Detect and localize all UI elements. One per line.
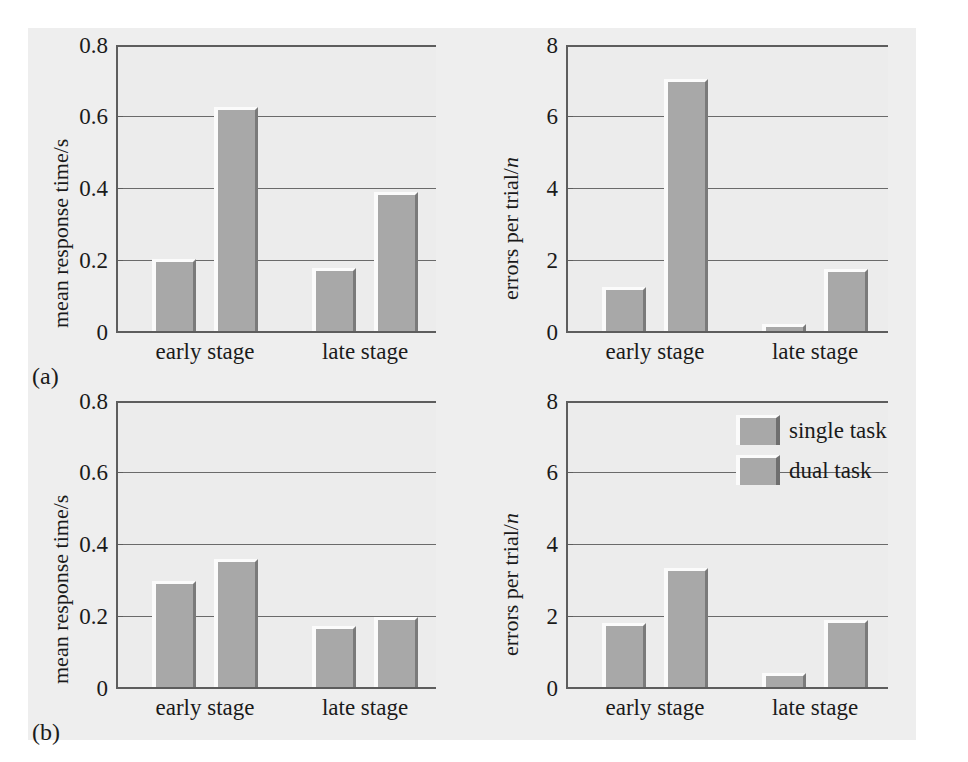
y-tick-0.8 [116, 401, 123, 402]
y-tick-label: 0 [547, 321, 559, 344]
legend: single task dual task [736, 413, 887, 493]
x-category-label-early: early stage [606, 340, 705, 363]
y-tick-0.2 [116, 260, 123, 261]
y-tick-label: 0.4 [79, 533, 108, 556]
y-tick-label: 0.8 [79, 390, 108, 413]
y-tick-label: 4 [547, 533, 559, 556]
y-tick-2 [566, 260, 573, 261]
y-tick-0 [116, 332, 123, 333]
legend-label-single-task: single task [789, 419, 887, 442]
y-tick-label: 0.2 [79, 249, 108, 272]
bar-late-dual [374, 617, 418, 687]
gridline-0.4 [116, 188, 436, 189]
x-category-label-late: late stage [772, 696, 858, 719]
y-axis-label-text: errors per trial/n [498, 513, 523, 656]
bar-early-dual [664, 79, 708, 331]
y-axis-label: mean response time/s [50, 139, 72, 328]
y-tick-0.4 [116, 544, 123, 545]
plot-area: 8 6 4 2 0 single task dual task [566, 401, 888, 689]
chart-a-errors: errors per trial/n 8 6 4 2 0 early stage… [472, 28, 916, 384]
bar-early-single [602, 287, 646, 331]
bar-late-single [762, 324, 806, 331]
y-tick-label: 0.4 [79, 177, 108, 200]
plot-area: 0.8 0.6 0.4 0.2 0 [116, 45, 436, 333]
y-tick-label: 4 [547, 177, 559, 200]
legend-item-dual-task: dual task [736, 453, 887, 487]
y-tick-label: 2 [547, 605, 559, 628]
bar-late-single [312, 268, 356, 331]
plot-area: 8 6 4 2 0 [566, 45, 888, 333]
bar-early-dual [214, 107, 258, 331]
gridline-0.6 [116, 472, 436, 473]
chart-b-errors: errors per trial/n 8 6 4 2 0 [472, 384, 916, 740]
plot-area: 0.8 0.6 0.4 0.2 0 [116, 401, 436, 689]
y-tick-label: 0 [547, 677, 559, 700]
y-tick-2 [566, 616, 573, 617]
y-tick-8 [566, 401, 573, 402]
x-axis [566, 331, 888, 333]
x-category-label-late: late stage [322, 340, 408, 363]
x-axis [116, 331, 436, 333]
x-category-label-early: early stage [156, 696, 255, 719]
bar-late-single [762, 673, 806, 687]
gridline-8 [566, 401, 888, 403]
bar-early-single [152, 259, 196, 331]
gridline-0.8 [116, 401, 436, 403]
y-tick-label: 0 [97, 321, 109, 344]
panel-letter-b: (b) [32, 720, 60, 744]
y-tick-label: 0 [97, 677, 109, 700]
figure-panel: mean response time/s 0.8 0.6 0.4 0.2 0 e… [28, 28, 916, 740]
y-axis [116, 401, 118, 689]
bar-early-dual [214, 559, 258, 687]
gridline-2 [566, 260, 888, 261]
y-tick-label: 0.2 [79, 605, 108, 628]
y-tick-0.6 [116, 116, 123, 117]
y-tick-6 [566, 472, 573, 473]
gridline-0.8 [116, 45, 436, 47]
x-category-label-late: late stage [322, 696, 408, 719]
y-tick-label: 2 [547, 249, 559, 272]
x-category-label-late: late stage [772, 340, 858, 363]
legend-swatch-single-task [736, 415, 780, 445]
y-tick-label: 0.8 [79, 34, 108, 57]
y-tick-6 [566, 116, 573, 117]
y-tick-0 [566, 332, 573, 333]
gridline-0.6 [116, 116, 436, 117]
y-tick-4 [566, 544, 573, 545]
chart-b-response-time: mean response time/s 0.8 0.6 0.4 0.2 0 e… [28, 384, 472, 740]
y-tick-0.8 [116, 45, 123, 46]
x-axis [116, 687, 436, 689]
y-tick-0 [116, 688, 123, 689]
y-tick-0.6 [116, 472, 123, 473]
gridline-8 [566, 45, 888, 47]
legend-swatch-dual-task [736, 455, 780, 485]
bar-early-dual [664, 568, 708, 687]
gridline-6 [566, 116, 888, 117]
y-tick-label: 6 [547, 461, 559, 484]
x-category-label-early: early stage [606, 696, 705, 719]
y-tick-0.4 [116, 188, 123, 189]
bar-early-single [152, 581, 196, 687]
y-tick-label: 0.6 [79, 461, 108, 484]
chart-a-response-time: mean response time/s 0.8 0.6 0.4 0.2 0 e… [28, 28, 472, 384]
y-axis [566, 401, 568, 689]
gridline-2 [566, 616, 888, 617]
y-tick-0.2 [116, 616, 123, 617]
y-axis-label: errors per trial/n [500, 157, 522, 300]
y-axis [116, 45, 118, 333]
bar-late-dual [374, 192, 418, 331]
y-tick-8 [566, 45, 573, 46]
gridline-4 [566, 188, 888, 189]
y-tick-4 [566, 188, 573, 189]
gridline-4 [566, 544, 888, 545]
y-axis-label: mean response time/s [50, 495, 72, 684]
y-tick-label: 0.6 [79, 105, 108, 128]
bar-early-single [602, 623, 646, 687]
y-axis-label-text: errors per trial/n [498, 157, 523, 300]
x-category-label-early: early stage [156, 340, 255, 363]
y-tick-0 [566, 688, 573, 689]
legend-label-dual-task: dual task [789, 459, 871, 482]
gridline-0.4 [116, 544, 436, 545]
y-tick-label: 8 [547, 34, 559, 57]
y-axis-label-text: mean response time/s [48, 139, 73, 328]
